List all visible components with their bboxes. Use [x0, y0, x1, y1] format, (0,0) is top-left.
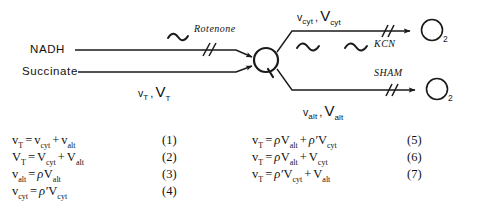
- rate-V-cyt: Vcyt: [320, 7, 341, 24]
- succinate-to-q-arrow: [78, 66, 252, 72]
- equation-term-subscript: alt: [53, 175, 61, 184]
- o2-cyt-subscript: 2: [443, 34, 448, 44]
- equation-term-subscript: alt: [290, 141, 298, 150]
- rate-V-alt: Valt: [324, 102, 343, 119]
- equation-left-row: valt=ρValt(3): [12, 167, 232, 184]
- o2-alt-subscript: 2: [448, 93, 453, 103]
- rate-v-total: vT: [138, 87, 148, 99]
- equation-left-row: vcyt=ρ′Vcyt(4): [12, 184, 232, 201]
- equation-right-row: vT=ρ′Vcyt+Valt(7): [252, 167, 482, 184]
- equation-term-subscript: cyt: [327, 141, 337, 150]
- equation-right-row: vT=ρValt+Vcyt(6): [252, 150, 482, 167]
- q-pool-node: [254, 48, 278, 77]
- equation-left-row: vT=vcyt+valt(1): [12, 133, 232, 150]
- equation-term: Vcyt: [283, 167, 302, 181]
- equation-column-right: vT=ρValt+ρ′Vcyt(5)vT=ρValt+Vcyt(6)vT=ρ′V…: [252, 133, 482, 184]
- equation-rho-symbol: ρ: [37, 167, 44, 181]
- equation-block: vT=vcyt+valt(1)VT=Vcyt+Valt(2)valt=ρValt…: [0, 133, 488, 217]
- equation-left-expression: vcyt=ρ′Vcyt: [12, 184, 67, 201]
- equation-left-number: (3): [162, 167, 177, 182]
- equation-term: Valt: [281, 133, 298, 147]
- equation-rho-symbol: ρ: [274, 133, 281, 147]
- equation-term-subscript: cyt: [292, 175, 302, 184]
- coupling-site-squiggle-cyt-2: [345, 43, 367, 50]
- coupling-site-squiggle-cyt-1: [297, 43, 319, 50]
- equation-operator: =: [263, 133, 274, 147]
- equation-operator: =: [26, 150, 37, 164]
- equation-right-expression: vT=ρValt+ρ′Vcyt: [252, 133, 337, 150]
- equation-term-subscript: cyt: [57, 192, 67, 201]
- equation-term: VT: [12, 150, 26, 164]
- rate-v-cyt: vcyt: [297, 11, 313, 23]
- nadh-to-q-arrow: [75, 50, 252, 57]
- equation-operator: =: [263, 150, 274, 164]
- equation-column-left: vT=vcyt+valt(1)VT=Vcyt+Valt(2)valt=ρValt…: [12, 133, 232, 201]
- equation-rho-symbol: ρ: [274, 150, 281, 164]
- equation-term-subscript: alt: [290, 158, 298, 167]
- equation-term: Valt: [44, 167, 61, 181]
- rate-V-total: VT: [155, 83, 170, 100]
- equation-term: Valt: [67, 150, 84, 164]
- equation-right-number: (6): [407, 150, 422, 165]
- inhibitor-label-rotenone: Rotenone: [194, 24, 236, 34]
- equation-right-expression: vT=ρValt+Vcyt: [252, 150, 328, 167]
- equation-left-expression: VT=Vcyt+Valt: [12, 150, 84, 167]
- equation-term: Vcyt: [37, 150, 56, 164]
- inhibitor-label-sham: SHAM: [374, 68, 403, 78]
- equation-term: Valt: [313, 167, 330, 181]
- equation-operator: =: [28, 184, 39, 198]
- equation-term-subscript: cyt: [18, 192, 28, 201]
- equation-left-row: VT=Vcyt+Valt(2): [12, 150, 232, 167]
- equation-term: Vcyt: [309, 150, 328, 164]
- rate-label-alternative: valt,Valt: [303, 103, 343, 122]
- equation-left-number: (2): [162, 150, 177, 165]
- equation-term: vcyt: [34, 133, 50, 147]
- equation-term-subscript: cyt: [46, 158, 56, 167]
- equation-operator: +: [302, 167, 313, 181]
- equation-operator: =: [23, 133, 34, 147]
- equation-right-expression: vT=ρ′Vcyt+Valt: [252, 167, 330, 184]
- equation-term: vT: [12, 133, 23, 147]
- equation-operator: +: [50, 133, 61, 147]
- equation-left-expression: valt=ρValt: [12, 167, 61, 184]
- rate-label-cytochrome: vcyt,Vcyt: [297, 8, 341, 27]
- equation-term: valt: [61, 133, 75, 147]
- equation-term: Vcyt: [318, 133, 337, 147]
- equation-left-number: (1): [162, 133, 177, 148]
- equation-right-number: (7): [407, 167, 422, 182]
- equation-term: valt: [12, 167, 26, 181]
- equation-term-subscript: alt: [322, 175, 330, 184]
- substrate-label-succinate: Succinate: [22, 66, 78, 78]
- equation-rho-symbol: ρ′: [39, 184, 48, 198]
- equation-term-subscript: cyt: [40, 141, 50, 150]
- equation-term: vT: [252, 133, 263, 147]
- equation-right-row: vT=ρValt+ρ′Vcyt(5): [252, 133, 482, 150]
- inhibitor-label-kcn: KCN: [374, 39, 396, 49]
- coupling-site-squiggle-nadh: [168, 34, 188, 41]
- equation-term-subscript: cyt: [318, 158, 328, 167]
- equation-operator: +: [56, 150, 67, 164]
- equation-term-subscript: alt: [76, 158, 84, 167]
- equation-term-subscript: alt: [68, 141, 76, 150]
- equation-operator: =: [263, 167, 274, 181]
- rate-v-alt: valt: [303, 106, 317, 118]
- o2-alternative-node: [427, 79, 448, 100]
- rate-label-total: vT,VT: [138, 84, 171, 103]
- equation-term: vT: [252, 150, 263, 164]
- equation-term: vcyt: [12, 184, 28, 198]
- equation-operator: +: [298, 150, 309, 164]
- o2-cytochrome-node: [422, 20, 443, 41]
- figure-canvas: Q NADH Succinate Rotenone KCN SHAM vT,VT…: [0, 0, 488, 217]
- equation-rho-symbol: ρ′: [309, 133, 318, 147]
- equation-left-number: (4): [162, 184, 177, 199]
- equation-term: vT: [252, 167, 263, 181]
- equation-left-expression: vT=vcyt+valt: [12, 133, 76, 150]
- substrate-label-nadh: NADH: [30, 44, 65, 56]
- equation-term: Valt: [281, 150, 298, 164]
- equation-term: Vcyt: [48, 184, 67, 198]
- equation-right-number: (5): [407, 133, 422, 148]
- equation-operator: +: [298, 133, 309, 147]
- equation-operator: =: [26, 167, 37, 181]
